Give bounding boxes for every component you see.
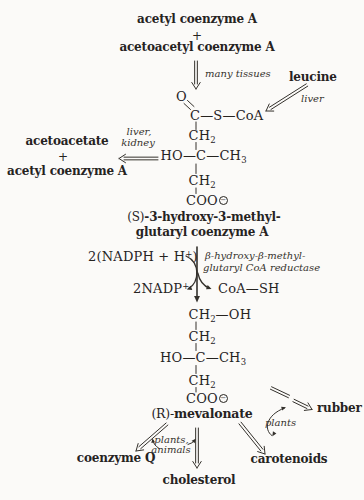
carbinol-row-1: HO—C—CH3	[161, 149, 247, 164]
carboxylate-row-2: COO−	[186, 392, 228, 406]
ch2-row-2: CH2	[189, 174, 216, 189]
label-liver: liver	[301, 94, 324, 105]
product-coenzyme-q: coenzyme Q	[77, 452, 155, 465]
arrow-many-tissues	[192, 61, 200, 89]
ch2-row-1: CH2	[189, 129, 216, 144]
arrow-to-cholesterol	[193, 428, 201, 468]
mevalonate-name: (R)-mevalonate	[151, 407, 252, 420]
hmg-coa-name-line2: glutaryl coenzyme A	[136, 226, 269, 239]
minus-charge-icon: −	[219, 394, 228, 403]
product-acetoacetate: acetoacetate	[25, 135, 108, 148]
enzyme-name-line2: glutaryl CoA reductase	[203, 263, 320, 274]
curve-coash-out	[198, 273, 212, 289]
product-cholesterol: cholesterol	[163, 474, 236, 487]
cofactor-nadph: 2(NADPH + H+)	[88, 250, 198, 264]
label-plants-animals-line2: animals	[151, 445, 190, 456]
byproduct-coa-sh: CoA—SH	[218, 282, 280, 296]
substrate-acetoacetyl-coa: acetoacetyl coenzyme A	[119, 41, 274, 54]
plus-sign-left: +	[58, 151, 68, 164]
ch2-row-3: CH2	[189, 330, 216, 345]
thioester-row: C—S—CoA	[190, 109, 263, 123]
label-plants: plants	[265, 418, 296, 429]
label-liver-kidney-line2: kidney	[121, 138, 155, 149]
carbinol-row-2: HO—C—CH3	[160, 351, 246, 366]
product-rubber: rubber	[317, 402, 362, 415]
label-many-tissues: many tissues	[205, 69, 271, 80]
cofactor-nadp: 2NADP+	[133, 282, 189, 296]
arrow-to-rubber-broken	[270, 387, 312, 411]
hmg-coa-name-line1: (S)-3-hydroxy-3-methyl-	[127, 211, 280, 224]
ch2-row-4: CH2	[189, 374, 216, 389]
arrow-to-acetoacetate	[119, 154, 158, 162]
product-carotenoids: carotenoids	[251, 453, 328, 466]
carboxylate-row-1: COO−	[186, 194, 228, 208]
minus-charge-icon: −	[219, 196, 228, 205]
mevalonate-pathway-diagram: acetyl coenzyme A + acetoacetyl coenzyme…	[0, 0, 364, 500]
product-acetyl-coa: acetyl coenzyme A	[7, 165, 127, 178]
atom-oxygen: O	[176, 90, 187, 104]
enzyme-name-line1: β-hydroxy-β-methyl-	[205, 251, 305, 262]
ch2oh-row: CH2—OH	[189, 308, 252, 323]
substrate-acetyl-coa: acetyl coenzyme A	[137, 13, 257, 26]
node-leucine: leucine	[289, 71, 337, 84]
arrow-to-carotenoids	[239, 422, 265, 454]
